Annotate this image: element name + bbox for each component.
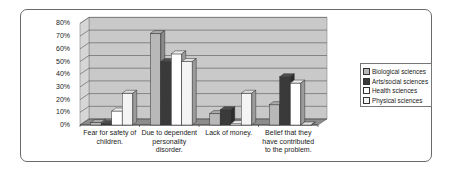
bar	[290, 80, 305, 125]
bar	[122, 90, 137, 125]
chart-legend: Biological sciences Arts/social sciences…	[360, 63, 432, 107]
legend-swatch-health	[363, 87, 370, 94]
x-category-label: Due to dependentpersonalitydisorder.	[140, 129, 200, 155]
legend-label: Biological sciences	[372, 68, 426, 75]
x-category-label: Belief that theyhave contributedto the p…	[259, 129, 319, 155]
legend-swatch-biological	[363, 68, 370, 75]
legend-label: Physical sciences	[372, 97, 422, 104]
legend-item-arts-social: Arts/social sciences	[363, 77, 429, 87]
bar	[241, 90, 256, 125]
legend-swatch-arts-social	[363, 78, 370, 85]
legend-item-health: Health sciences	[363, 86, 429, 96]
y-tick-label: 20%	[46, 96, 70, 103]
x-category-label: Lack of money.	[199, 129, 259, 138]
legend-item-biological: Biological sciences	[363, 67, 429, 77]
y-tick-label: 60%	[46, 45, 70, 52]
y-tick-label: 40%	[46, 70, 70, 77]
legend-swatch-physical	[363, 97, 370, 104]
y-tick-label: 80%	[46, 19, 70, 26]
legend-label: Health sciences	[372, 87, 417, 94]
y-tick-label: 70%	[46, 32, 70, 39]
y-tick-label: 10%	[46, 108, 70, 115]
y-tick-label: 0%	[46, 121, 70, 128]
y-tick-label: 30%	[46, 83, 70, 90]
x-category-label: Fear for safety ofchildren.	[80, 129, 140, 146]
legend-label: Arts/social sciences	[372, 78, 428, 85]
legend-item-physical: Physical sciences	[363, 96, 429, 106]
y-tick-label: 50%	[46, 58, 70, 65]
bar	[182, 59, 197, 126]
